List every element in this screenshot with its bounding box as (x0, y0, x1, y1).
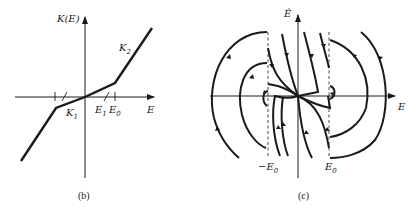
neg-e0-label: −E0 (258, 161, 279, 175)
e0-label: E0 (324, 161, 337, 175)
panel-b: K(E) E K2 K1 E1 E0 (b) (15, 13, 155, 202)
trajectories (212, 32, 386, 158)
e0-label: E0 (108, 104, 121, 118)
panel-c: Ê E −E0 E0 (c) (210, 8, 406, 202)
x-axis-label: E (397, 101, 406, 112)
y-axis-label: K(E) (56, 13, 80, 24)
trajectory (320, 33, 329, 68)
arrow-icon (304, 130, 309, 134)
k-curve (21, 28, 152, 161)
e1-label: E1 (94, 104, 107, 118)
arrow-icon (249, 74, 254, 79)
x-axis-label: E (146, 104, 155, 115)
trajectory (298, 96, 312, 158)
k1-label: K1 (65, 107, 78, 121)
trajectory (282, 34, 298, 96)
panel-b-caption: (b) (78, 190, 90, 202)
k2-label: K2 (118, 42, 131, 56)
trajectory (330, 32, 386, 158)
y-axis-label: Ê (283, 8, 292, 19)
arrow-icon (276, 125, 281, 129)
panel-c-caption: (c) (298, 190, 309, 202)
trajectory (298, 32, 318, 96)
arrow-icon (226, 54, 231, 59)
figure-canvas: K(E) E K2 K1 E1 E0 (b) (0, 0, 420, 209)
trajectory (240, 63, 267, 148)
trajectory (330, 40, 368, 137)
trajectory (282, 97, 288, 156)
